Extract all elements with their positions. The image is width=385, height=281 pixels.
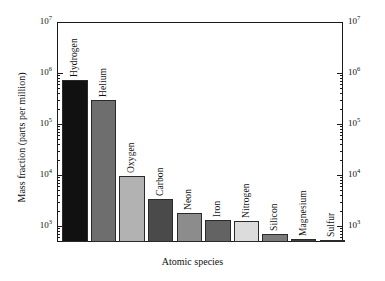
bar-label-neon: Neon	[183, 189, 193, 210]
ytick-label-right-1e7: 107	[348, 16, 360, 26]
ytick-label-right-1e6: 106	[348, 67, 360, 77]
ytick-label-left-1e7: 107	[40, 16, 52, 26]
ytick-label-left-1e6: 106	[40, 67, 52, 77]
bar-carbon[interactable]: Carbon	[148, 199, 173, 242]
bar-nitrogen[interactable]: Nitrogen	[234, 221, 259, 242]
bar-silicon[interactable]: Silicon	[262, 234, 287, 242]
ytick-label-left-1e5: 105	[40, 118, 52, 128]
bar-label-nitrogen: Nitrogen	[240, 183, 250, 218]
bar-label-helium: Helium	[97, 68, 107, 97]
bar-sulfur[interactable]: Sulfur	[320, 240, 345, 242]
bar-label-iron: Iron	[212, 201, 222, 217]
x-axis-title: Atomic species	[0, 256, 385, 267]
bar-label-oxygen: Oxygen	[126, 142, 136, 173]
bar-magnesium[interactable]: Magnesium	[291, 239, 316, 242]
bar-series-layer: HydrogenHeliumOxygenCarbonNeonIronNitrog…	[57, 22, 343, 242]
bar-oxygen[interactable]: Oxygen	[119, 176, 144, 242]
bar-label-hydrogen: Hydrogen	[69, 38, 79, 77]
bar-label-carbon: Carbon	[154, 167, 164, 196]
ytick-label-left-1e4: 104	[40, 169, 52, 179]
ytick-label-right-1e4: 104	[348, 169, 360, 179]
chart-figure: 107 106 105 104 103 107 106 105 104 103 …	[0, 0, 385, 281]
ytick-label-right-1e3: 103	[348, 220, 360, 230]
bar-label-magnesium: Magnesium	[297, 190, 307, 236]
ytick-label-left-1e3: 103	[40, 220, 52, 230]
y-axis-title: Mass fraction (parts per million)	[16, 53, 27, 223]
ytick-label-right-1e5: 105	[348, 118, 360, 128]
bar-hydrogen[interactable]: Hydrogen	[62, 80, 87, 242]
bar-label-silicon: Silicon	[269, 203, 279, 231]
bar-helium[interactable]: Helium	[91, 100, 116, 242]
bar-iron[interactable]: Iron	[205, 220, 230, 242]
bar-label-sulfur: Sulfur	[326, 213, 336, 237]
bar-neon[interactable]: Neon	[177, 213, 202, 242]
